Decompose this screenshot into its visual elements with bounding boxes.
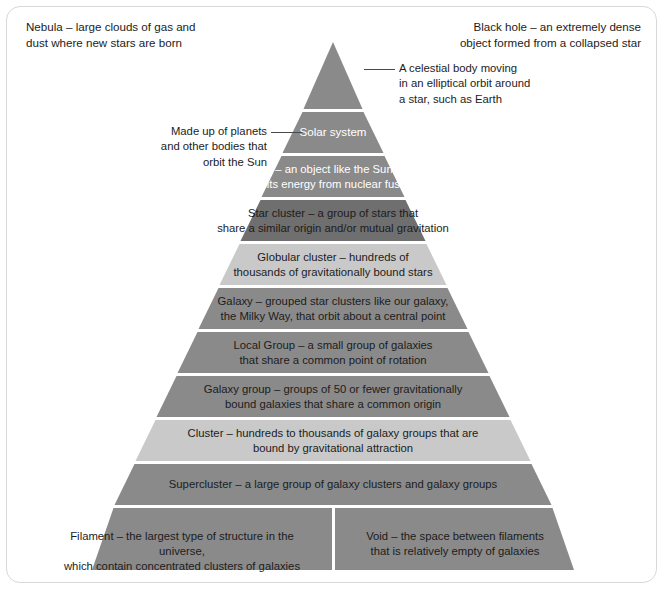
band-shape-galaxy-group xyxy=(157,376,510,417)
planet-callout: A celestial body moving in an elliptical… xyxy=(399,61,599,107)
band-shape-globular-cluster xyxy=(220,244,447,285)
band-shape-galaxy xyxy=(199,288,468,329)
band-shape-cluster xyxy=(136,420,531,461)
solar-system-callout: Made up of planets and other bodies that… xyxy=(110,124,267,170)
band-shape-local-group xyxy=(178,332,489,373)
black-hole-note: Black hole – an extremely dense object f… xyxy=(400,19,641,51)
diagram-canvas: Nebula – large clouds of gas and dust wh… xyxy=(0,0,665,591)
band-shape-filament xyxy=(92,508,332,570)
nebula-note: Nebula – large clouds of gas and dust wh… xyxy=(26,19,266,51)
planet-leader-line xyxy=(364,69,395,70)
band-shape-star xyxy=(262,156,405,197)
band-shape-star-cluster xyxy=(241,200,426,241)
band-shape-planet xyxy=(304,42,363,109)
solar-system-leader-line xyxy=(271,132,303,133)
band-shape-void xyxy=(335,508,574,570)
band-shape-supercluster xyxy=(115,464,552,505)
